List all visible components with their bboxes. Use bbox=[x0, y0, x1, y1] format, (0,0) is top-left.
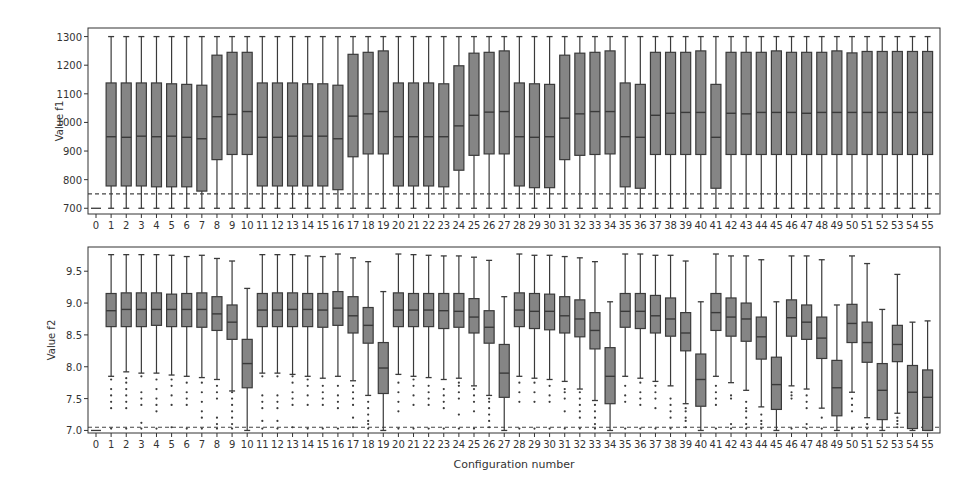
x-tick-label: 38 bbox=[664, 220, 677, 231]
outlier-point bbox=[171, 394, 173, 396]
outlier-point bbox=[171, 385, 173, 387]
box-19 bbox=[378, 37, 388, 209]
box-5 bbox=[167, 255, 177, 428]
outlier-point bbox=[533, 401, 535, 403]
iqr-box bbox=[469, 299, 479, 333]
box-24 bbox=[454, 37, 464, 209]
x-tick-label: 49 bbox=[831, 439, 844, 450]
outlier-point bbox=[261, 407, 263, 409]
outlier-point bbox=[412, 385, 414, 387]
outlier-point bbox=[261, 401, 263, 403]
outlier-point bbox=[110, 378, 112, 380]
outlier-point bbox=[155, 378, 157, 380]
box-46 bbox=[787, 256, 797, 430]
box-30 bbox=[545, 255, 555, 429]
outlier-point bbox=[397, 427, 399, 429]
outlier-point bbox=[110, 388, 112, 390]
x-tick-label: 36 bbox=[634, 220, 647, 231]
outlier-point bbox=[125, 382, 127, 384]
outlier-point bbox=[231, 427, 233, 429]
box-34 bbox=[605, 302, 615, 431]
iqr-box bbox=[121, 83, 131, 186]
box-23 bbox=[439, 37, 449, 209]
outlier-point bbox=[276, 420, 278, 422]
outlier-point bbox=[186, 382, 188, 384]
outlier-point bbox=[140, 375, 142, 377]
box-52 bbox=[877, 309, 887, 430]
x-tick-label: 13 bbox=[286, 439, 299, 450]
x-tick-label: 5 bbox=[168, 439, 174, 450]
x-tick-label: 0 bbox=[93, 220, 99, 231]
box-10 bbox=[242, 37, 252, 209]
iqr-box bbox=[711, 84, 721, 188]
outlier-point bbox=[624, 394, 626, 396]
outlier-point bbox=[231, 410, 233, 412]
plot-value-f1: 7008009001000110012001300012345678910111… bbox=[54, 28, 940, 231]
outlier-point bbox=[579, 404, 581, 406]
iqr-box bbox=[787, 52, 797, 154]
box-13 bbox=[288, 37, 298, 209]
box-22 bbox=[424, 255, 434, 429]
outlier-point bbox=[352, 391, 354, 393]
outlier-point bbox=[428, 385, 430, 387]
box-3 bbox=[136, 37, 146, 209]
iqr-box bbox=[877, 51, 887, 154]
outlier-point bbox=[639, 404, 641, 406]
outlier-point bbox=[624, 427, 626, 429]
outlier-point bbox=[171, 378, 173, 380]
box-51 bbox=[862, 264, 872, 430]
outlier-point bbox=[458, 398, 460, 400]
iqr-box bbox=[560, 55, 570, 159]
outlier-point bbox=[851, 427, 853, 429]
outlier-point bbox=[473, 410, 475, 412]
iqr-box bbox=[666, 298, 676, 336]
x-tick-label: 53 bbox=[891, 439, 904, 450]
x-tick-label: 48 bbox=[815, 439, 828, 450]
outlier-point bbox=[443, 394, 445, 396]
box-29 bbox=[529, 255, 539, 429]
box-44 bbox=[756, 260, 766, 430]
box-16 bbox=[333, 254, 343, 430]
box-49 bbox=[832, 37, 842, 209]
outlier-point bbox=[639, 382, 641, 384]
x-tick-label: 33 bbox=[589, 439, 602, 450]
x-tick-label: 18 bbox=[362, 220, 375, 231]
box-47 bbox=[802, 256, 812, 430]
x-tick-label: 32 bbox=[573, 439, 586, 450]
box-45 bbox=[771, 302, 781, 431]
outlier-point bbox=[261, 420, 263, 422]
y-tick-label: 1200 bbox=[57, 60, 82, 71]
outlier-point bbox=[367, 427, 369, 429]
x-tick-label: 3 bbox=[138, 220, 144, 231]
outlier-point bbox=[730, 398, 732, 400]
outlier-point bbox=[291, 375, 293, 377]
outlier-point bbox=[412, 404, 414, 406]
box-33 bbox=[590, 262, 600, 430]
outlier-point bbox=[533, 382, 535, 384]
outlier-point bbox=[322, 391, 324, 393]
outlier-point bbox=[473, 388, 475, 390]
outlier-point bbox=[443, 388, 445, 390]
outlier-point bbox=[639, 398, 641, 400]
outlier-point bbox=[518, 401, 520, 403]
iqr-box bbox=[696, 51, 706, 155]
outlier-point bbox=[140, 422, 142, 424]
box-40 bbox=[696, 302, 706, 431]
outlier-point bbox=[155, 404, 157, 406]
outlier-point bbox=[806, 394, 808, 396]
outlier-point bbox=[231, 423, 233, 425]
x-tick-label: 19 bbox=[377, 220, 390, 231]
x-tick-label: 19 bbox=[377, 439, 390, 450]
box-15 bbox=[318, 257, 328, 430]
x-tick-label: 25 bbox=[468, 220, 481, 231]
iqr-box bbox=[167, 294, 177, 326]
outlier-point bbox=[186, 427, 188, 429]
plot-value-f2: 7.07.58.08.59.09.50123456789101112131415… bbox=[46, 247, 940, 450]
outlier-point bbox=[624, 385, 626, 387]
iqr-box bbox=[832, 51, 842, 155]
iqr-box bbox=[288, 83, 298, 186]
iqr-box bbox=[257, 83, 267, 186]
iqr-box bbox=[393, 83, 403, 186]
box-38 bbox=[666, 255, 676, 429]
box-54 bbox=[907, 37, 917, 209]
